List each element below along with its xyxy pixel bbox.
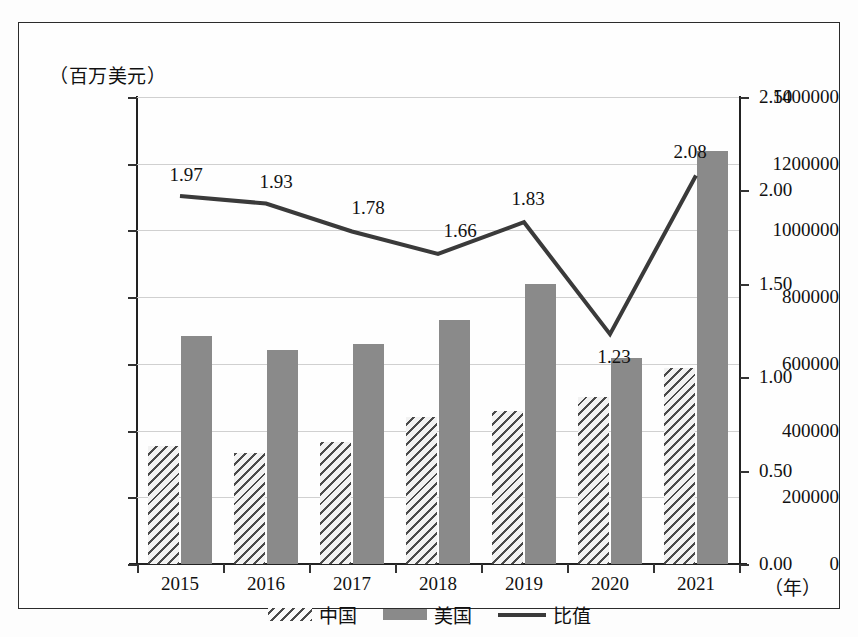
x-axis-tick — [137, 564, 139, 573]
right-axis-tick — [740, 377, 749, 379]
left-axis-tick — [128, 164, 137, 166]
bar-usa — [181, 336, 212, 564]
x-axis-tick-label: 2016 — [221, 573, 311, 595]
ratio-data-label: 1.83 — [511, 188, 544, 210]
right-axis-tick-label: 1.50 — [759, 273, 829, 295]
bar-china — [234, 453, 265, 564]
legend-swatch-solid-icon — [383, 609, 427, 620]
ratio-line-series — [137, 97, 739, 564]
x-axis-tick-label: 2019 — [479, 573, 569, 595]
bar-usa — [439, 320, 470, 565]
bar-china — [320, 442, 351, 564]
ratio-data-label: 1.23 — [597, 346, 630, 368]
right-axis-tick-label: 0.50 — [759, 460, 829, 482]
x-axis-tick — [653, 564, 655, 573]
legend-item[interactable]: 中国 — [268, 601, 357, 628]
legend-item[interactable]: 美国 — [383, 601, 472, 628]
ratio-data-label: 1.78 — [351, 197, 384, 219]
ratio-data-label: 1.66 — [443, 220, 476, 242]
x-axis-tick — [567, 564, 569, 573]
left-axis-tick — [128, 230, 137, 232]
gridline — [137, 431, 739, 432]
bar-usa — [525, 284, 556, 564]
x-axis-tick-label: 2015 — [135, 573, 225, 595]
plot-area: 1.971.931.781.661.831.232.08 — [137, 97, 739, 564]
right-axis-tick — [740, 564, 749, 566]
bar-china — [492, 411, 523, 564]
x-axis-tick — [223, 564, 225, 573]
left-axis-tick — [128, 364, 137, 366]
gridline — [137, 297, 739, 298]
left-axis-tick — [128, 97, 137, 99]
gridline — [137, 364, 739, 365]
y-axis-unit-caption: （百万美元） — [49, 61, 166, 88]
right-axis-tick — [740, 190, 749, 192]
left-axis-tick-label: 200000 — [735, 486, 839, 508]
bar-usa — [611, 358, 642, 564]
right-axis-tick — [740, 97, 749, 99]
right-axis-tick-label: 0.00 — [759, 553, 829, 575]
x-axis-tick-label: 2021 — [651, 573, 741, 595]
right-axis-tick-label: 2.50 — [759, 86, 829, 108]
legend-label: 美国 — [434, 601, 472, 628]
legend-label: 比值 — [553, 601, 591, 628]
bar-usa — [267, 350, 298, 564]
x-axis-tick-label: 2020 — [565, 573, 655, 595]
left-axis-tick — [128, 297, 137, 299]
bar-usa — [697, 151, 728, 564]
legend-item[interactable]: 比值 — [498, 601, 591, 628]
legend-swatch-line-icon — [498, 613, 546, 617]
x-axis-tick — [395, 564, 397, 573]
chart-frame: （百万美元） 020000040000060000080000010000001… — [18, 22, 840, 609]
chart-legend: 中国美国比值 — [19, 601, 839, 628]
ratio-data-label: 2.08 — [673, 141, 706, 163]
gridline — [137, 97, 739, 98]
legend-label: 中国 — [319, 601, 357, 628]
bar-china — [406, 417, 437, 564]
x-axis-tick — [481, 564, 483, 573]
gridline — [137, 164, 739, 165]
left-axis-tick — [128, 497, 137, 499]
right-axis-tick — [740, 471, 749, 473]
left-axis-tick-label: 1000000 — [735, 219, 839, 241]
bar-china — [148, 446, 179, 564]
gridline — [137, 230, 739, 231]
x-axis-tick — [739, 564, 741, 573]
x-axis-tick-label: 2018 — [393, 573, 483, 595]
gridline — [137, 497, 739, 498]
right-axis-tick — [740, 284, 749, 286]
legend-swatch-hatched-icon — [268, 608, 312, 621]
ratio-data-label: 1.93 — [259, 171, 292, 193]
x-axis-tick — [309, 564, 311, 573]
x-axis-unit-label: （年） — [764, 573, 821, 600]
left-axis-tick — [128, 564, 137, 566]
right-axis-tick-label: 2.00 — [759, 179, 829, 201]
bar-china — [664, 368, 695, 564]
x-axis-tick-label: 2017 — [307, 573, 397, 595]
bar-usa — [353, 344, 384, 564]
left-axis-tick-label: 400000 — [735, 420, 839, 442]
bar-china — [578, 397, 609, 564]
ratio-data-label: 1.97 — [169, 164, 202, 186]
right-axis-tick-label: 1.00 — [759, 366, 829, 388]
left-axis-tick-label: 1200000 — [735, 153, 839, 175]
left-axis-tick — [128, 431, 137, 433]
chart-screenshot: （百万美元） 020000040000060000080000010000001… — [0, 0, 858, 637]
